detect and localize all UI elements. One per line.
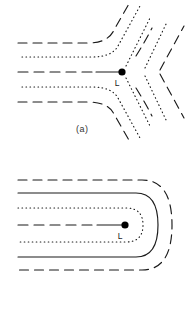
- contour-dash-upper-outer: [18, 2, 130, 43]
- panel-a-canvas: L: [0, 0, 196, 155]
- branch-dot-lr-1: [126, 78, 150, 126]
- null-point-dot: [118, 68, 125, 75]
- panel-b: L (b): [0, 155, 196, 310]
- panel-a-caption: (a): [76, 124, 89, 134]
- figure-root: L (a) L (b): [0, 0, 196, 310]
- contour-dot-upper-inner: [22, 6, 140, 57]
- branch-dot-ur-3: [145, 22, 167, 68]
- null-point-label: L: [118, 231, 123, 241]
- branch-dash-ur-4: [160, 26, 184, 70]
- contour-dash-lower-outer: [18, 102, 130, 142]
- branch-dash-lr-4: [160, 74, 184, 118]
- panel-a: L (a): [0, 0, 196, 155]
- branch-dash-ur-2: [136, 28, 152, 56]
- branch-dot-ur-1: [126, 18, 150, 66]
- branch-dot-lr-3: [145, 76, 167, 122]
- branch-dash-lr-2: [136, 88, 152, 116]
- null-point-label: L: [115, 78, 120, 88]
- panel-b-canvas: L: [0, 155, 196, 310]
- null-point-dot: [121, 221, 128, 228]
